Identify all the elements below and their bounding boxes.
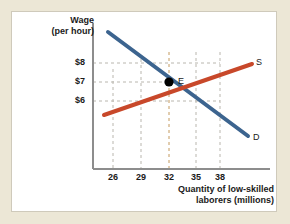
- y-axis-title-line1: Wage: [70, 15, 94, 25]
- supply-demand-chart: [12, 12, 278, 213]
- x-axis-title-line2: laborers (millions): [196, 195, 274, 205]
- y-tick-label-6: $6: [55, 95, 85, 105]
- x-tick-label-32: 32: [157, 172, 181, 182]
- supply-curve-label: S: [256, 57, 262, 67]
- y-axis-title: Wage(per hour): [14, 15, 94, 36]
- x-axis-title: Quantity of low-skilledlaborers (million…: [122, 184, 274, 205]
- x-axis-title-line1: Quantity of low-skilled: [178, 184, 274, 194]
- y-axis-title-line2: (per hour): [52, 26, 95, 36]
- x-tick-label-26: 26: [101, 172, 125, 182]
- equilibrium-point-label: E: [178, 76, 184, 86]
- supply-curve: [104, 64, 252, 115]
- equilibrium-point-marker: [164, 77, 173, 86]
- demand-curve-label: D: [253, 132, 260, 142]
- x-tick-label-29: 29: [129, 172, 153, 182]
- y-tick-label-7: $7: [55, 76, 85, 86]
- x-tick-label-38: 38: [208, 172, 232, 182]
- figure-panel: Wage(per hour) Quantity of low-skilledla…: [11, 11, 277, 212]
- x-tick-label-35: 35: [184, 172, 208, 182]
- y-tick-label-8: $8: [55, 57, 85, 67]
